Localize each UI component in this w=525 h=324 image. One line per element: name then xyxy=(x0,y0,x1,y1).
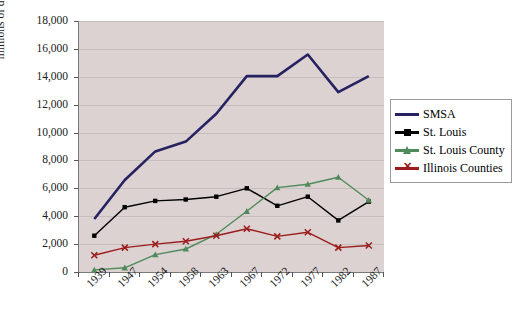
square-marker-icon xyxy=(153,199,157,203)
square-marker-icon xyxy=(245,186,249,190)
legend-swatch-illinois-counties: ✕ xyxy=(395,162,419,174)
legend-label-st-louis: St. Louis xyxy=(423,126,466,138)
y-axis-tick-label: 10,000 xyxy=(14,127,68,139)
y-axis-tick-label: 12,000 xyxy=(14,99,68,111)
triangle-marker-icon xyxy=(335,174,341,180)
legend-label-smsa: SMSA xyxy=(423,108,456,120)
square-marker-icon xyxy=(306,195,310,199)
legend-swatch-st-louis xyxy=(395,126,419,138)
y-axis-tick-label: 16,000 xyxy=(14,43,68,55)
legend-label-st-louis-county: St. Louis County xyxy=(423,144,505,156)
square-marker-icon xyxy=(275,204,279,208)
plot-area xyxy=(78,21,384,273)
line-chart: millions of dollars 02,0004,0006,0008,00… xyxy=(0,0,525,324)
legend-item-st-louis-county: St. Louis County xyxy=(395,141,505,159)
square-marker-icon xyxy=(214,195,218,199)
square-marker-icon xyxy=(123,205,127,209)
legend-item-st-louis: St. Louis xyxy=(395,123,505,141)
series-line xyxy=(94,188,369,235)
x-marker-icon: ✕ xyxy=(403,163,410,170)
y-axis-title: millions of dollars xyxy=(0,0,6,92)
y-axis-tick-label: 8,000 xyxy=(14,154,68,166)
square-marker-icon xyxy=(184,197,188,201)
square-marker-icon xyxy=(92,234,96,238)
legend-label-illinois-counties: Illinois Counties xyxy=(423,162,503,174)
series-layer xyxy=(79,21,384,272)
chart-legend: SMSA St. Louis St. Louis County ✕ Illino… xyxy=(390,99,512,183)
legend-swatch-smsa xyxy=(395,108,419,120)
legend-item-smsa: SMSA xyxy=(395,105,505,123)
y-axis-tick-label: 18,000 xyxy=(14,15,68,27)
triangle-marker-icon xyxy=(403,146,411,154)
y-axis-tick-label: 6,000 xyxy=(14,182,68,194)
square-marker-icon xyxy=(336,218,340,222)
legend-swatch-st-louis-county xyxy=(395,144,419,156)
series-line xyxy=(94,229,369,256)
y-axis-tick-label: 14,000 xyxy=(14,71,68,83)
series-line xyxy=(94,55,369,220)
y-axis-tick-label: 4,000 xyxy=(14,210,68,222)
series-line xyxy=(94,177,369,270)
square-marker-icon xyxy=(404,129,411,136)
y-axis-tick-label: 2,000 xyxy=(14,238,68,250)
y-axis-tick-label: 0 xyxy=(14,266,68,278)
legend-item-illinois-counties: ✕ Illinois Counties xyxy=(395,159,505,177)
x-axis-tick-mark xyxy=(78,272,79,277)
